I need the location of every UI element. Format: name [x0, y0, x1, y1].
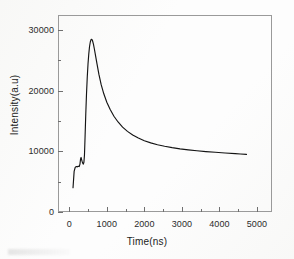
figure-container: 010002000300040005000 0100002000030000 T…: [0, 0, 294, 259]
x-tick-label-4000: 4000: [209, 219, 229, 229]
x-tick-minor-4500: [238, 209, 239, 212]
x-tick-minor-2500: [163, 209, 164, 212]
y-tick-label-0: 0: [49, 207, 54, 217]
x-tick-major-4000: [219, 207, 220, 212]
y-tick-major-20000: [58, 91, 63, 92]
y-tick-label-20000: 20000: [28, 86, 54, 96]
x-tick-major-0: [69, 207, 70, 212]
x-axis-title: Time(ns): [0, 236, 294, 247]
scan-artifact: [8, 249, 70, 255]
x-tick-label-3000: 3000: [172, 219, 192, 229]
y-tick-label-30000: 30000: [28, 25, 54, 35]
x-tick-minor-500: [88, 209, 89, 212]
x-tick-major-2000: [144, 207, 145, 212]
y-axis-title-wrapper: Intensity(a.u): [5, 0, 23, 220]
x-tick-label-2000: 2000: [134, 219, 154, 229]
y-tick-major-10000: [58, 151, 63, 152]
x-tick-major-1000: [107, 207, 108, 212]
x-tick-label-5000: 5000: [247, 219, 267, 229]
decay-curve-svg: [58, 15, 272, 212]
x-tick-minor-3500: [201, 209, 202, 212]
y-tick-major-0: [58, 212, 63, 213]
y-tick-major-30000: [58, 30, 63, 31]
x-tick-label-0: 0: [67, 219, 72, 229]
y-axis-title: Intensity(a.u): [9, 75, 20, 136]
x-tick-minor-1500: [126, 209, 127, 212]
y-tick-minor-25000: [58, 60, 61, 61]
x-tick-major-3000: [182, 207, 183, 212]
y-tick-minor-15000: [58, 121, 61, 122]
decay-curve-line: [73, 39, 246, 188]
x-tick-label-1000: 1000: [97, 219, 117, 229]
y-tick-label-10000: 10000: [28, 146, 54, 156]
x-tick-major-5000: [257, 207, 258, 212]
y-tick-minor-5000: [58, 182, 61, 183]
plot-area: [58, 15, 272, 212]
